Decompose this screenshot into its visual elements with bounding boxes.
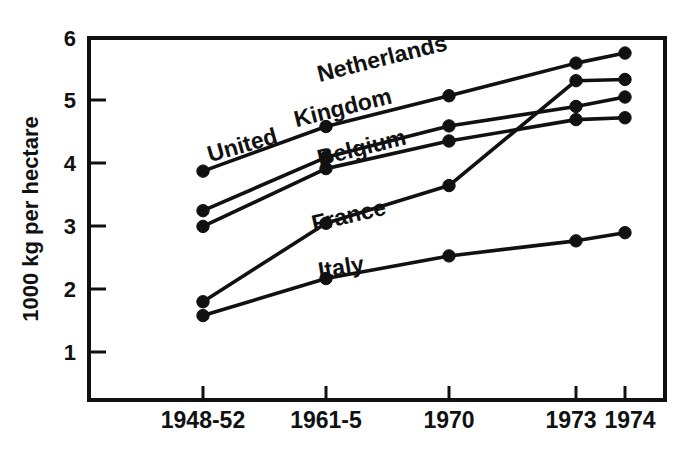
data-point-kingdom-4 [619,91,631,103]
series-line-kingdom [203,97,625,211]
series-label-layer: NetherlandsUnitedKingdomBelgiumFranceIta… [204,29,449,283]
y-tick-marks [89,100,106,352]
y-tick-label-5: 5 [64,88,76,113]
y-tick-label-6: 6 [64,26,76,51]
x-tick-label-1961-5: 1961-5 [290,407,362,433]
data-point-italy-0 [197,309,209,321]
x-tick-marks [203,386,625,400]
line-chart-figure: 6 5 4 3 2 1 1948-52 1961-5 1970 1973 197… [0,0,683,466]
x-tick-label-1973: 1973 [545,407,596,433]
data-point-italy-3 [570,235,582,247]
y-axis-title: 1000 kg per hectare [18,116,43,321]
data-point-belgium-0 [197,220,209,232]
y-tick-label-1: 1 [64,340,76,365]
y-tick-labels: 6 5 4 3 2 1 [64,26,77,365]
y-tick-label-2: 2 [64,277,76,302]
data-point-france-0 [197,296,209,308]
chart-canvas: 6 5 4 3 2 1 1948-52 1961-5 1970 1973 197… [0,0,683,466]
series-label-kingdom: Kingdom [291,83,394,132]
data-point-belgium-4 [619,112,631,124]
data-point-netherlands-3 [570,57,582,69]
data-point-belgium-3 [570,113,582,125]
x-tick-label-1970: 1970 [423,407,474,433]
series-line-italy [203,233,625,316]
data-point-italy-4 [619,226,631,238]
data-point-netherlands-0 [197,165,209,177]
x-tick-label-1948-52: 1948-52 [161,407,245,433]
series-line-france [203,79,625,301]
data-point-netherlands-4 [619,47,631,59]
data-point-france-2 [443,179,455,191]
data-point-kingdom-2 [443,120,455,132]
series-label-italy: Italy [316,251,366,284]
x-tick-label-1974: 1974 [604,407,655,433]
data-point-netherlands-2 [443,90,455,102]
data-point-belgium-2 [443,135,455,147]
y-tick-label-4: 4 [64,151,77,176]
x-tick-labels: 1948-52 1961-5 1970 1973 1974 [161,407,656,433]
data-point-france-4 [619,73,631,85]
data-point-kingdom-3 [570,100,582,112]
series-label-united: United [204,122,280,167]
series-line-netherlands [203,53,625,171]
series-label-france: France [309,194,388,236]
y-tick-label-3: 3 [64,214,76,239]
series-layer [197,47,631,322]
data-point-italy-2 [443,250,455,262]
data-point-france-3 [570,75,582,87]
data-point-kingdom-0 [197,205,209,217]
